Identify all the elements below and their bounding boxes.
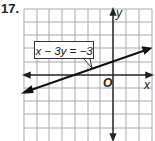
- y-axis-label: y: [116, 6, 122, 20]
- coordinate-graph: [0, 0, 155, 141]
- x-axis-label: x: [144, 78, 150, 92]
- origin-label: O: [103, 76, 112, 90]
- equation-label: x − 3y = −3: [34, 41, 94, 59]
